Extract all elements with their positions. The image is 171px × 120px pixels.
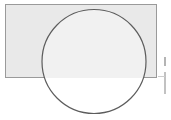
right-edge-mark-upper: [164, 57, 166, 66]
right-edge-mark-lower: [164, 72, 166, 94]
diagram-canvas: A light gray filled rectangle overlapped…: [0, 0, 171, 120]
right-edge-mark-tick: [158, 76, 165, 77]
geometry-figure: [0, 0, 171, 120]
